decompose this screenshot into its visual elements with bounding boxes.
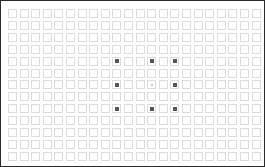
grid-cell[interactable] xyxy=(8,9,17,18)
grid-cell[interactable] xyxy=(252,80,261,89)
grid-cell[interactable] xyxy=(66,116,75,125)
grid-cell[interactable] xyxy=(170,33,179,42)
grid-cell[interactable] xyxy=(101,33,110,42)
grid-cell[interactable] xyxy=(194,57,203,66)
grid-cell[interactable] xyxy=(170,69,179,78)
grid-cell[interactable] xyxy=(136,128,145,137)
grid-cell[interactable] xyxy=(43,21,52,30)
grid-cell[interactable] xyxy=(205,152,214,161)
grid-cell[interactable] xyxy=(112,152,121,161)
grid-cell[interactable] xyxy=(78,116,87,125)
grid-cell[interactable] xyxy=(20,45,29,54)
grid-cell[interactable] xyxy=(205,128,214,137)
grid-cell[interactable] xyxy=(147,69,156,78)
grid-cell[interactable] xyxy=(101,57,110,66)
grid-cell[interactable] xyxy=(31,104,40,113)
grid-cell[interactable] xyxy=(54,69,63,78)
grid-cell[interactable] xyxy=(20,80,29,89)
grid-cell[interactable] xyxy=(66,69,75,78)
grid-cell[interactable] xyxy=(182,57,191,66)
grid-cell[interactable] xyxy=(89,116,98,125)
grid-cell[interactable] xyxy=(159,69,168,78)
grid-cell[interactable] xyxy=(89,128,98,137)
grid-cell[interactable] xyxy=(112,92,121,101)
grid-cell[interactable] xyxy=(54,57,63,66)
grid-cell[interactable] xyxy=(78,92,87,101)
grid-cell[interactable] xyxy=(31,69,40,78)
grid-cell[interactable] xyxy=(147,21,156,30)
grid-cell[interactable] xyxy=(182,45,191,54)
grid-cell[interactable] xyxy=(31,33,40,42)
grid-cell[interactable] xyxy=(240,33,249,42)
grid-cell[interactable] xyxy=(54,80,63,89)
grid-cell[interactable] xyxy=(78,69,87,78)
grid-cell[interactable] xyxy=(182,116,191,125)
grid-cell[interactable] xyxy=(205,33,214,42)
grid-cell[interactable] xyxy=(182,92,191,101)
grid-cell[interactable] xyxy=(147,33,156,42)
grid-cell[interactable] xyxy=(147,9,156,18)
grid-cell[interactable] xyxy=(101,9,110,18)
grid-cell[interactable] xyxy=(89,92,98,101)
grid-cell[interactable] xyxy=(170,92,179,101)
grid-cell[interactable] xyxy=(159,57,168,66)
grid-cell[interactable] xyxy=(136,69,145,78)
grid-cell[interactable] xyxy=(228,140,237,149)
grid-cell[interactable] xyxy=(228,92,237,101)
grid-cell[interactable] xyxy=(101,69,110,78)
grid-cell[interactable] xyxy=(252,152,261,161)
grid-cell[interactable] xyxy=(78,80,87,89)
grid-cell[interactable] xyxy=(228,45,237,54)
grid-cell[interactable] xyxy=(31,45,40,54)
grid-cell[interactable] xyxy=(43,45,52,54)
grid-cell[interactable] xyxy=(43,140,52,149)
grid-cell[interactable] xyxy=(194,80,203,89)
grid-cell[interactable] xyxy=(89,69,98,78)
grid-cell[interactable] xyxy=(194,92,203,101)
grid-cell[interactable] xyxy=(159,21,168,30)
grid-cell[interactable] xyxy=(194,128,203,137)
grid-cell[interactable] xyxy=(182,104,191,113)
grid-cell[interactable] xyxy=(101,128,110,137)
grid-cell[interactable] xyxy=(31,92,40,101)
grid-cell[interactable] xyxy=(194,152,203,161)
grid-cell[interactable] xyxy=(124,80,133,89)
grid-cell[interactable] xyxy=(54,152,63,161)
grid-cell[interactable] xyxy=(31,9,40,18)
grid-cell[interactable] xyxy=(217,152,226,161)
grid-cell[interactable] xyxy=(252,116,261,125)
grid-cell[interactable] xyxy=(182,152,191,161)
grid-cell[interactable] xyxy=(240,116,249,125)
grid-cell[interactable] xyxy=(43,33,52,42)
grid-cell[interactable] xyxy=(217,140,226,149)
grid-cell[interactable] xyxy=(228,116,237,125)
grid-cell[interactable] xyxy=(194,140,203,149)
grid-cell[interactable] xyxy=(194,45,203,54)
grid-cell[interactable] xyxy=(20,104,29,113)
grid-cell-marked[interactable] xyxy=(147,80,156,89)
grid-cell[interactable] xyxy=(147,140,156,149)
square-grid[interactable] xyxy=(1,1,265,167)
grid-cell[interactable] xyxy=(31,57,40,66)
grid-cell[interactable] xyxy=(217,80,226,89)
grid-cell[interactable] xyxy=(182,21,191,30)
grid-cell[interactable] xyxy=(31,116,40,125)
grid-cell[interactable] xyxy=(20,21,29,30)
grid-cell[interactable] xyxy=(159,92,168,101)
grid-cell[interactable] xyxy=(20,140,29,149)
grid-cell[interactable] xyxy=(89,152,98,161)
grid-cell[interactable] xyxy=(124,57,133,66)
grid-cell[interactable] xyxy=(20,116,29,125)
grid-cell[interactable] xyxy=(228,33,237,42)
grid-cell[interactable] xyxy=(31,128,40,137)
grid-cell[interactable] xyxy=(101,104,110,113)
grid-cell[interactable] xyxy=(20,92,29,101)
grid-cell[interactable] xyxy=(124,104,133,113)
grid-cell[interactable] xyxy=(159,128,168,137)
grid-cell[interactable] xyxy=(78,57,87,66)
grid-cell[interactable] xyxy=(54,21,63,30)
grid-cell[interactable] xyxy=(89,104,98,113)
grid-cell[interactable] xyxy=(78,152,87,161)
grid-cell[interactable] xyxy=(8,69,17,78)
grid-cell[interactable] xyxy=(194,116,203,125)
